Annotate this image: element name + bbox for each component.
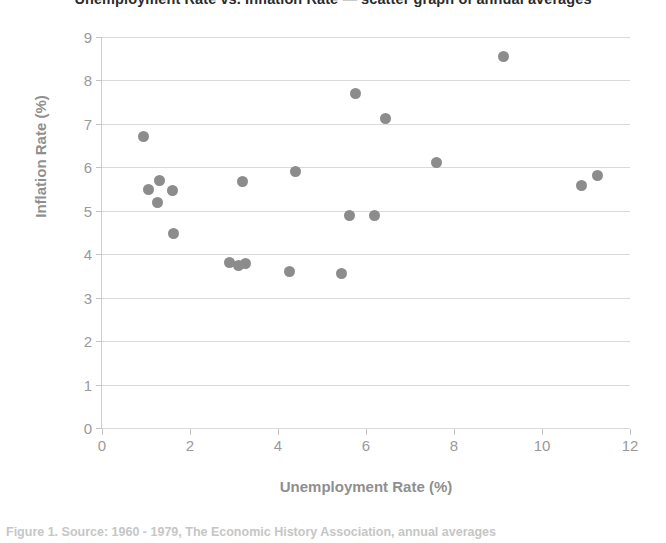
y-axis-line <box>101 37 102 429</box>
scatter-point <box>167 185 178 196</box>
gridline-y <box>102 80 630 81</box>
y-tick-mark <box>96 80 102 81</box>
gridline-y <box>102 211 630 212</box>
scatter-point <box>380 113 391 124</box>
y-tick-label: 4 <box>84 246 92 263</box>
y-tick-label: 3 <box>84 289 92 306</box>
figure-title-text: Unemployment Rate vs. Inflation Rate — s… <box>0 0 666 11</box>
y-tick-mark <box>96 124 102 125</box>
y-tick-label: 8 <box>84 72 92 89</box>
scatter-point <box>350 88 361 99</box>
y-tick-label: 9 <box>84 29 92 46</box>
figure-title-cropped: Unemployment Rate vs. Inflation Rate — s… <box>0 0 666 11</box>
y-tick-mark <box>96 341 102 342</box>
y-tick-label: 7 <box>84 115 92 132</box>
x-tick-mark <box>102 429 103 435</box>
x-tick-mark <box>278 429 279 435</box>
y-tick-mark <box>96 385 102 386</box>
y-tick-label: 5 <box>84 202 92 219</box>
scatter-point <box>336 268 347 279</box>
plot-area: 0123456789 024681012 <box>102 37 630 428</box>
gridline-y <box>102 341 630 342</box>
y-tick-mark <box>96 37 102 38</box>
x-tick-label: 4 <box>274 437 282 454</box>
x-tick-label: 6 <box>362 437 370 454</box>
gridline-y <box>102 298 630 299</box>
x-tick-mark <box>454 429 455 435</box>
y-tick-label: 1 <box>84 376 92 393</box>
y-axis-title: Inflation Rate (%) <box>32 57 49 257</box>
scatter-point <box>369 210 380 221</box>
y-tick-label: 0 <box>84 420 92 437</box>
scatter-point <box>138 131 149 142</box>
scatter-point <box>168 228 179 239</box>
x-tick-label: 2 <box>186 437 194 454</box>
scatter-point <box>154 175 165 186</box>
x-tick-label: 12 <box>622 437 639 454</box>
y-tick-mark <box>96 254 102 255</box>
x-tick-mark <box>630 429 631 435</box>
x-tick-mark <box>190 429 191 435</box>
gridline-y <box>102 385 630 386</box>
scatter-point <box>284 266 295 277</box>
y-tick-label: 2 <box>84 333 92 350</box>
gridline-y <box>102 124 630 125</box>
scatter-point <box>290 166 301 177</box>
scatter-point <box>152 197 163 208</box>
figure-caption-cropped: Figure 1. Source: 1960 - 1979, The Econo… <box>0 522 666 543</box>
scatter-point <box>498 51 509 62</box>
scatter-point <box>592 170 603 181</box>
y-tick-label: 6 <box>84 159 92 176</box>
x-tick-mark <box>366 429 367 435</box>
x-tick-mark <box>542 429 543 435</box>
y-tick-mark <box>96 167 102 168</box>
scatter-point <box>576 180 587 191</box>
scatter-point <box>344 210 355 221</box>
x-tick-label: 8 <box>450 437 458 454</box>
scatter-point <box>431 157 442 168</box>
gridline-y <box>102 37 630 38</box>
y-tick-mark <box>96 298 102 299</box>
figure-caption-text: Figure 1. Source: 1960 - 1979, The Econo… <box>0 522 666 542</box>
x-axis-title: Unemployment Rate (%) <box>102 478 630 495</box>
scatter-point <box>143 184 154 195</box>
scatter-point <box>237 176 248 187</box>
x-tick-label: 10 <box>534 437 551 454</box>
x-tick-label: 0 <box>98 437 106 454</box>
scatter-point <box>240 258 251 269</box>
y-tick-mark <box>96 211 102 212</box>
gridline-y <box>102 167 630 168</box>
gridline-y <box>102 254 630 255</box>
